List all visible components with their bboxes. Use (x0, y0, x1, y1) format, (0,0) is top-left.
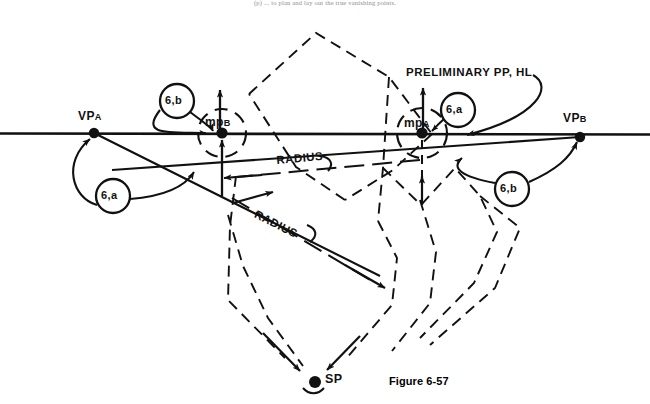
upper-dashed-inner-fold (378, 77, 389, 221)
vp-b-dot (575, 132, 585, 142)
left-6a-curve-right (130, 172, 194, 199)
right-6b-curve-right (529, 142, 577, 182)
step-label-right-6b: 6,b (500, 182, 517, 194)
vp-a-label: VPA (78, 109, 102, 123)
left-6a-curve-left (73, 139, 97, 205)
vpb-to-left-ray (112, 137, 580, 170)
mp-b-label: mpB (205, 115, 231, 129)
figure-canvas: (p) ... to plan and lay out the true van… (0, 0, 650, 404)
right-6b-curve-left (457, 158, 495, 183)
upper-6a-curve (432, 119, 444, 131)
sp-dot (309, 376, 321, 388)
mp-b-dot (216, 127, 227, 138)
step-label-upper-6a: 6,a (446, 103, 463, 115)
preliminary-pp-hl-label: PRELIMINARY PP, HL (406, 66, 532, 78)
vp-b-label: VPB (563, 111, 587, 125)
lower-dashed-construction (228, 168, 520, 366)
figure-caption: Figure 6-57 (389, 375, 449, 387)
perspective-construction-diagram (0, 0, 650, 404)
step-label-upper-6b: 6,b (165, 94, 182, 106)
step-label-left-6a: 6,a (101, 189, 118, 201)
sp-label: SP (325, 372, 342, 386)
mp-a-label: mpA (404, 116, 430, 130)
preliminary-pointer-curve (467, 75, 541, 135)
vp-a-dot (89, 128, 99, 138)
